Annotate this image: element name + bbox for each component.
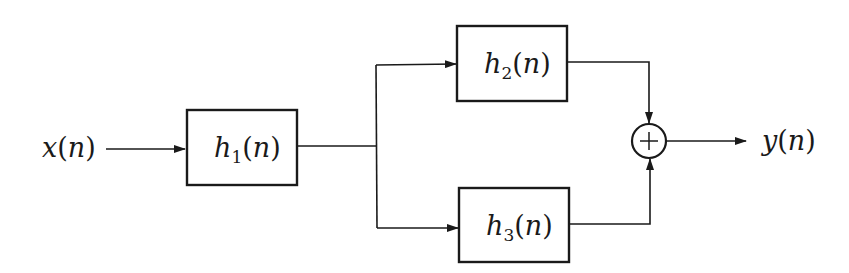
h3-to-adder-arrow — [569, 159, 650, 224]
block-h3: h3(n) — [459, 188, 569, 262]
block-h1-label: h1(n) — [214, 132, 281, 167]
block-h2-label: h2(n) — [484, 48, 551, 83]
block-h2: h2(n) — [457, 26, 567, 101]
adder — [632, 124, 666, 158]
branch-arrow-h2 — [376, 64, 456, 65]
output-label: y(n) — [761, 125, 816, 156]
block-h3-label: h3(n) — [486, 210, 553, 245]
block-h1: h1(n) — [187, 110, 297, 185]
input-label: x(n) — [42, 132, 96, 163]
block-diagram: x(n) h1(n) h2(n) h3(n) — [0, 0, 849, 273]
split-vertical-line — [376, 65, 377, 228]
h2-to-adder-arrow — [567, 62, 649, 123]
